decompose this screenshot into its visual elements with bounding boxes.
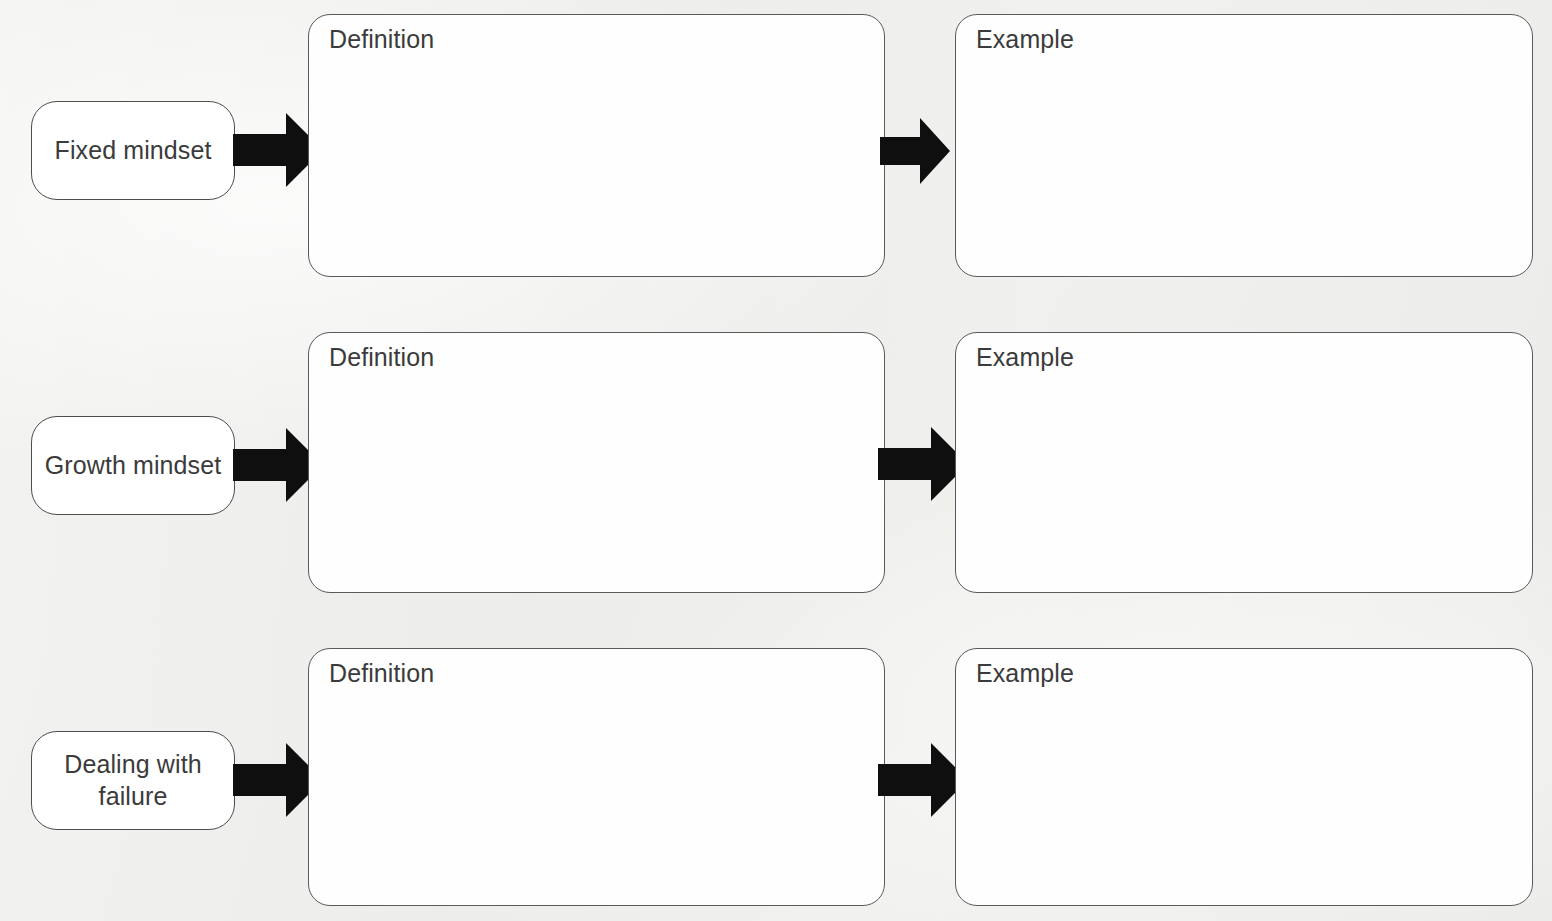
topic-label-text: Dealing with failure xyxy=(42,749,224,813)
example-box-growth-mindset[interactable]: Example xyxy=(955,332,1533,593)
definition-box-growth-mindset[interactable]: Definition xyxy=(308,332,885,593)
definition-box-fixed-mindset[interactable]: Definition xyxy=(308,14,885,277)
example-heading: Example xyxy=(976,24,1074,54)
definition-heading: Definition xyxy=(329,24,434,54)
topic-label-text: Fixed mindset xyxy=(55,135,212,167)
definition-box-dealing-with-failure[interactable]: Definition xyxy=(308,648,885,906)
worksheet-page: Fixed mindset Definition Example Growth … xyxy=(0,0,1552,921)
topic-label-text: Growth mindset xyxy=(45,450,221,482)
topic-label-box-growth-mindset[interactable]: Growth mindset xyxy=(31,416,235,515)
arrow-right-icon xyxy=(880,118,950,184)
topic-label-box-dealing-with-failure[interactable]: Dealing with failure xyxy=(31,731,235,830)
topic-label-box-fixed-mindset[interactable]: Fixed mindset xyxy=(31,101,235,200)
example-box-fixed-mindset[interactable]: Example xyxy=(955,14,1533,277)
definition-heading: Definition xyxy=(329,658,434,688)
definition-heading: Definition xyxy=(329,342,434,372)
example-heading: Example xyxy=(976,342,1074,372)
example-box-dealing-with-failure[interactable]: Example xyxy=(955,648,1533,906)
example-heading: Example xyxy=(976,658,1074,688)
